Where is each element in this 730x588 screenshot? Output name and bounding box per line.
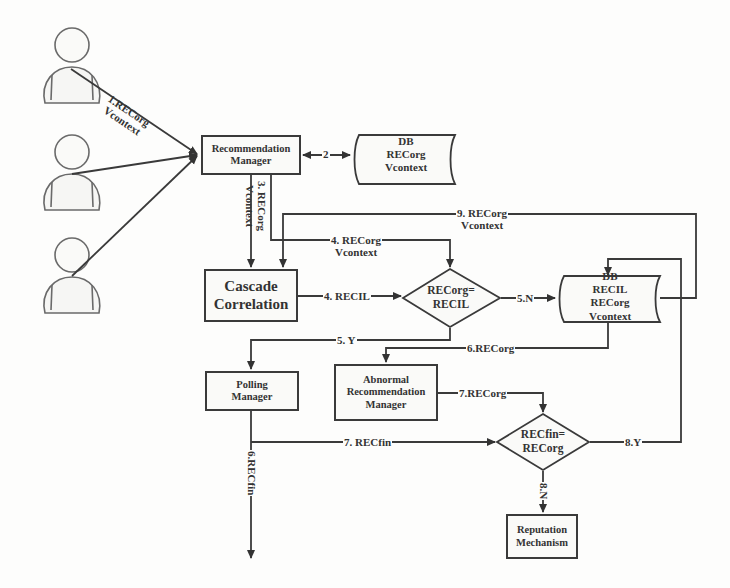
cascade-line1: Cascade xyxy=(214,278,289,295)
decision1-line2: RECIL xyxy=(410,298,492,312)
edge-6fin-label: 6.RECfin xyxy=(246,450,258,496)
decision1-line1: RECorg= xyxy=(410,284,492,298)
edge-2-label: 2 xyxy=(322,148,330,160)
polling-line2: Manager xyxy=(232,391,273,403)
edge-6-label: 6.RECorg xyxy=(466,342,515,354)
edge-3-label: 3. RECorg Vcontext xyxy=(244,180,268,232)
db1-field-vcontext: Vcontext xyxy=(356,161,456,174)
edge-9-label: 9. RECorg Vcontext xyxy=(456,207,508,231)
edge-9-line1: 9. RECorg xyxy=(457,207,507,219)
edge-3-line2: Vcontext xyxy=(244,181,256,231)
edge-7fin-label: 7. RECfin xyxy=(343,436,392,448)
edge-8y-label: 8.Y xyxy=(624,436,642,448)
user-icon-2 xyxy=(44,135,100,210)
abnormal-manager-node: AbnormalRecommendationManager xyxy=(334,364,438,421)
cascade-line2: Correlation xyxy=(214,296,289,313)
reputation-mechanism-node: ReputationMechanism xyxy=(506,514,578,559)
edge-7org-label: 7.RECorg xyxy=(458,387,507,399)
recommendation-manager-line2: Manager xyxy=(212,155,291,167)
edge-9-line2: Vcontext xyxy=(457,219,507,231)
polling-manager-node: PollingManager xyxy=(205,371,299,411)
edge-4a-line2: Vcontext xyxy=(331,246,381,258)
edge-5y-label: 5. Y xyxy=(336,334,357,346)
edge-8n-label: 8.N xyxy=(538,482,550,500)
flow-diagram: RecommendationManager DB RECorg Vcontext… xyxy=(0,0,730,588)
edge-4a-line1: 4. RECorg xyxy=(331,234,381,246)
db1-node: DB RECorg Vcontext xyxy=(356,135,456,175)
decision2-line2: RECorg xyxy=(505,442,581,456)
db2-field-vcontext: Vcontext xyxy=(560,310,660,323)
decision2-node: RECfin= RECorg xyxy=(505,428,581,456)
edge-4b-label: 4. RECIL xyxy=(323,290,371,302)
abnormal-line2: Recommendation xyxy=(347,386,426,398)
decision1-node: RECorg= RECIL xyxy=(410,284,492,312)
reputation-line2: Mechanism xyxy=(516,537,568,549)
abnormal-line1: Abnormal xyxy=(347,374,426,386)
db2-field-recorg: RECorg xyxy=(560,296,660,309)
edge-5n-label: 5.N xyxy=(516,292,534,304)
abnormal-line3: Manager xyxy=(347,399,426,411)
recommendation-manager-line1: Recommendation xyxy=(212,143,291,155)
reputation-line1: Reputation xyxy=(516,524,568,536)
user-icon-1 xyxy=(44,28,100,103)
cascade-correlation-node: CascadeCorrelation xyxy=(204,269,298,322)
edge-4a-label: 4. RECorg Vcontext xyxy=(330,234,382,258)
polling-line1: Polling xyxy=(232,379,273,391)
db1-title: DB xyxy=(356,135,456,148)
db2-node: DB RECIL RECorg Vcontext xyxy=(560,270,660,323)
edge-3-line1: 3. RECorg xyxy=(256,181,268,231)
db2-title: DB xyxy=(560,270,660,283)
db2-field-recil: RECIL xyxy=(560,283,660,296)
decision2-line1: RECfin= xyxy=(505,428,581,442)
recommendation-manager-node: RecommendationManager xyxy=(201,135,301,175)
db1-field-recorg: RECorg xyxy=(356,148,456,161)
